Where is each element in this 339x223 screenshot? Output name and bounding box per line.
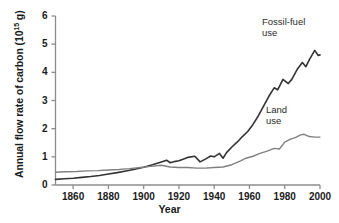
x-tick-label: 1980 [265, 192, 305, 202]
series-line-land-use [56, 134, 321, 172]
y-tick-label: 4 [26, 67, 48, 77]
axes [56, 16, 321, 185]
x-tick-label: 2000 [300, 192, 339, 202]
x-tick-label: 1940 [194, 192, 234, 202]
x-tick-label: 1920 [159, 192, 199, 202]
y-tick-label: 3 [26, 96, 48, 106]
y-tick-label: 1 [26, 152, 48, 162]
axis-ticks [52, 16, 321, 189]
x-tick-label: 1900 [124, 192, 164, 202]
carbon-flow-line-chart: Annual flow rate of carbon (1015 g) Year… [0, 0, 339, 223]
y-tick-label: 2 [26, 124, 48, 134]
plot-area [0, 0, 339, 223]
series-line-fossil-fuel-use [56, 50, 321, 179]
x-tick-label: 1880 [88, 192, 128, 202]
x-tick-label: 1960 [229, 192, 269, 202]
data-series [56, 50, 321, 179]
y-tick-label: 6 [26, 11, 48, 21]
x-tick-label: 1860 [53, 192, 93, 202]
y-tick-label: 0 [26, 180, 48, 190]
y-tick-label: 5 [26, 39, 48, 49]
